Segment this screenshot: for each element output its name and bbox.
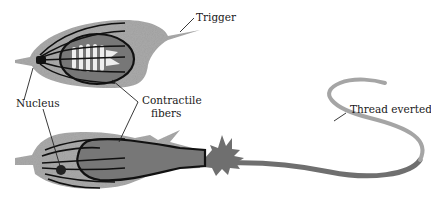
label-nucleus: Nucleus	[16, 97, 60, 109]
undischarged-cell	[15, 20, 200, 88]
label-thread-everted: Thread everted	[350, 103, 431, 115]
thread-barbs	[204, 135, 244, 176]
nucleus-bottom	[56, 165, 66, 175]
everted-thread-dark	[230, 160, 420, 176]
label-trigger: Trigger	[196, 11, 237, 23]
cnidocyte-diagram: Trigger Nucleus Contractile fibers Threa…	[0, 0, 431, 210]
everted-thread-light	[329, 80, 422, 160]
discharged-cell	[15, 80, 423, 189]
label-fibers: fibers	[151, 107, 181, 119]
nucleus-top	[36, 56, 46, 64]
label-contractile: Contractile	[142, 94, 202, 106]
